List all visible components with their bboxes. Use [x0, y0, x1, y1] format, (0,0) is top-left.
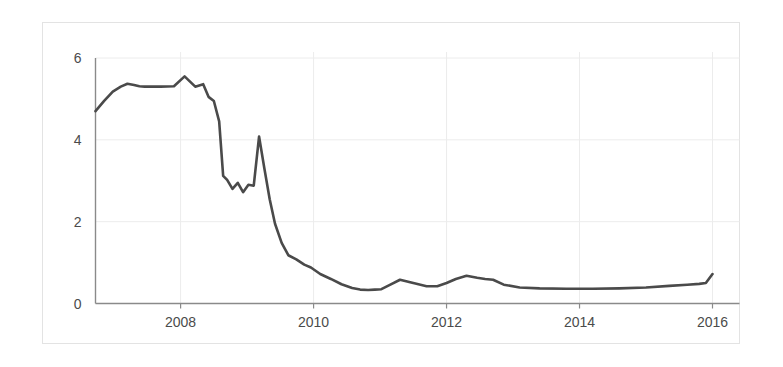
x-tick-label: 2008: [165, 314, 196, 330]
x-tick-label: 2010: [298, 314, 329, 330]
x-axis-tick-labels: 20082010201220142016: [165, 314, 728, 330]
y-tick-label: 6: [74, 50, 82, 66]
line-chart: 0246 20082010201220142016: [0, 0, 783, 367]
x-tick-label: 2016: [697, 314, 728, 330]
y-tick-label: 0: [74, 296, 82, 312]
axes: [96, 58, 740, 304]
y-tick-label: 2: [74, 214, 82, 230]
tick-marks: [181, 304, 713, 309]
y-tick-label: 4: [74, 132, 82, 148]
series-line-1: [96, 76, 713, 290]
gridlines: [96, 52, 740, 304]
figure-root: 0246 20082010201220142016: [0, 0, 783, 367]
data-series: [96, 76, 713, 290]
x-tick-label: 2014: [564, 314, 595, 330]
y-axis-tick-labels: 0246: [74, 50, 82, 312]
x-tick-label: 2012: [431, 314, 462, 330]
